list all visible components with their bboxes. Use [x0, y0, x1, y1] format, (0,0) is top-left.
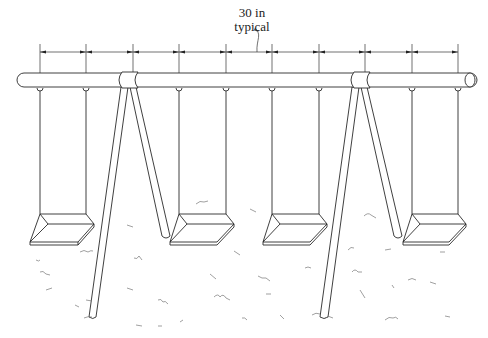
a-frame-left: [89, 87, 170, 319]
dimension-line: [40, 28, 458, 80]
dimension-label: 30 in typical: [222, 6, 282, 34]
a-frame-right: [320, 87, 402, 319]
seat-4: [403, 88, 466, 245]
seat-2: [170, 88, 234, 245]
dimension-note: typical: [222, 20, 282, 34]
top-beam: [17, 72, 477, 88]
dimension-value: 30 in: [222, 6, 282, 20]
seat-3: [263, 88, 327, 245]
seat-1: [30, 88, 94, 245]
swing-set-diagram: [0, 0, 488, 338]
